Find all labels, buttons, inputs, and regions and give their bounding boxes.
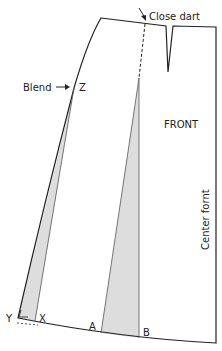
dart-close-dashed-line bbox=[139, 24, 145, 78]
hem-dashed-extension bbox=[17, 323, 38, 325]
center-front-label: Center fornt bbox=[200, 189, 211, 250]
side-slash-line bbox=[35, 88, 74, 321]
close-dart-label: Close dart bbox=[149, 11, 200, 22]
blend-label: Blend bbox=[23, 82, 51, 93]
point-y-label: Y bbox=[5, 313, 13, 324]
front-label: FRONT bbox=[164, 119, 199, 130]
blend-arrowhead bbox=[65, 84, 70, 90]
skirt-pattern-diagram: Close dart Blend Z FRONT Center fornt Y … bbox=[0, 0, 222, 351]
point-b-label: B bbox=[143, 327, 150, 338]
point-x-label: X bbox=[39, 313, 46, 324]
close-dart-arrowhead bbox=[141, 15, 146, 21]
point-a-label: A bbox=[89, 321, 96, 332]
point-z-label: Z bbox=[79, 82, 86, 93]
